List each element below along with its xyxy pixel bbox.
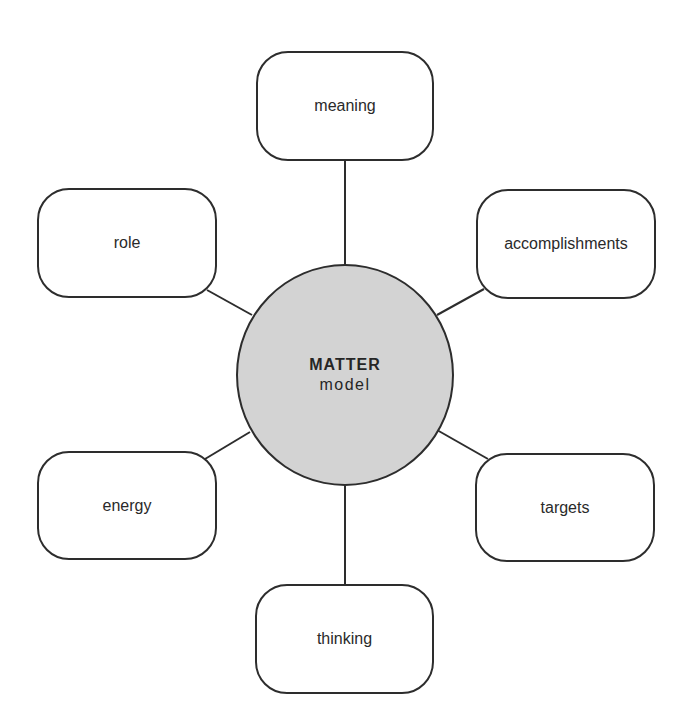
node-label: targets: [541, 499, 590, 517]
connector-accomplishments: [437, 289, 484, 315]
node-thinking: thinking: [255, 584, 434, 694]
node-targets: targets: [475, 453, 655, 562]
hub-title: MATTER: [309, 356, 380, 374]
node-meaning: meaning: [256, 51, 434, 161]
hub-subtitle: model: [319, 376, 370, 394]
connector-role: [207, 290, 252, 315]
connector-targets: [437, 430, 488, 459]
connector-energy: [205, 432, 250, 459]
node-label: role: [114, 234, 141, 252]
node-label: energy: [103, 497, 152, 515]
hub-circle: MATTER model: [236, 264, 454, 486]
node-label: meaning: [314, 97, 375, 115]
node-label: thinking: [317, 630, 372, 648]
node-energy: energy: [37, 451, 217, 560]
node-role: role: [37, 188, 217, 298]
node-accomplishments: accomplishments: [476, 189, 656, 299]
node-label: accomplishments: [504, 235, 628, 253]
